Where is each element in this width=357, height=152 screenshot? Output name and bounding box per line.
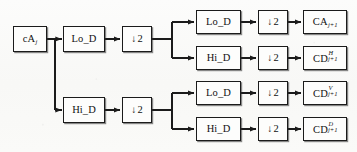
node-hi-d-row4-label: Hi_D [207, 124, 231, 135]
node-lo-d-stage1: Lo_D [63, 26, 105, 52]
node-downsample-row3-label: ↓2 [267, 88, 278, 99]
node-output-cd-horizontal-label: CDHj+1 [313, 52, 337, 65]
node-output-cd-horizontal: CDHj+1 [303, 46, 347, 70]
node-downsample-stage1-bottom: ↓2 [122, 97, 152, 123]
node-downsample-row1: ↓2 [258, 10, 288, 34]
node-output-cd-diagonal: CDDj+1 [303, 117, 347, 141]
node-downsample-stage1-top: ↓2 [122, 26, 152, 52]
node-downsample-stage1-bottom-label: ↓2 [131, 105, 142, 116]
down-arrow-icon: ↓ [267, 17, 272, 27]
wavelet-decomposition-diagram: cAj Lo_D Hi_D ↓2 ↓2 Lo_D Hi_D Lo_D Hi_D … [0, 0, 357, 152]
node-hi-d-row4: Hi_D [196, 117, 241, 141]
node-lo-d-row3-label: Lo_D [206, 88, 231, 99]
down-arrow-icon: ↓ [131, 34, 136, 44]
down-arrow-icon: ↓ [131, 105, 136, 115]
node-output-cd-vertical-label: CDVj+1 [313, 87, 337, 100]
node-lo-d-row1: Lo_D [196, 10, 241, 34]
node-output-ca: CAj+1 [303, 10, 347, 34]
node-output-cd-diagonal-label: CDDj+1 [313, 123, 337, 136]
cd-h-indices: Hj+1 [328, 52, 337, 62]
down-arrow-icon: ↓ [267, 124, 272, 134]
node-input-ca: cAj [13, 26, 47, 52]
node-hi-d-stage1-label: Hi_D [72, 105, 96, 116]
node-downsample-stage1-top-label: ↓2 [131, 34, 142, 45]
node-input-ca-label: cAj [23, 34, 37, 45]
node-output-cd-vertical: CDVj+1 [303, 81, 347, 105]
node-downsample-row1-label: ↓2 [267, 17, 278, 28]
node-hi-d-row2-label: Hi_D [207, 53, 231, 64]
cd-v-indices: Vj+1 [328, 87, 337, 97]
node-output-ca-label: CAj+1 [313, 17, 337, 28]
cd-d-indices: Dj+1 [328, 123, 337, 133]
node-hi-d-stage1: Hi_D [63, 97, 105, 123]
node-downsample-row4-label: ↓2 [267, 124, 278, 135]
down-arrow-icon: ↓ [267, 88, 272, 98]
down-arrow-icon: ↓ [267, 53, 272, 63]
node-hi-d-row2: Hi_D [196, 46, 241, 70]
node-lo-d-row1-label: Lo_D [206, 17, 231, 28]
node-downsample-row2: ↓2 [258, 46, 288, 70]
node-downsample-row2-label: ↓2 [267, 53, 278, 64]
node-downsample-row3: ↓2 [258, 81, 288, 105]
node-downsample-row4: ↓2 [258, 117, 288, 141]
node-lo-d-row3: Lo_D [196, 81, 241, 105]
node-lo-d-stage1-label: Lo_D [72, 34, 97, 45]
